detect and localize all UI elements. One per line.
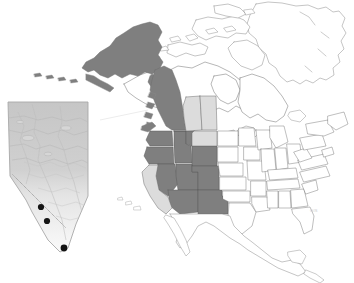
aleutian-islands <box>34 73 78 83</box>
region-maryland-delaware <box>322 147 334 157</box>
region-kansas <box>220 177 246 190</box>
region-arizona <box>168 190 198 214</box>
newfoundland <box>288 110 306 122</box>
region-central-america <box>304 270 324 283</box>
region-oregon <box>144 147 174 164</box>
region-eastern-canada <box>238 74 288 122</box>
alberta-boundary <box>8 102 88 252</box>
region-montana-east <box>192 131 217 146</box>
vancouver-island <box>141 122 156 132</box>
region-arctic-islands <box>192 16 250 40</box>
region-ellesmere <box>214 4 246 18</box>
sample-point-3 <box>61 245 68 252</box>
sample-point-1 <box>38 204 44 210</box>
region-pennsylvania <box>300 134 326 150</box>
region-kentucky <box>268 168 298 180</box>
distribution-map-figure: GIS <box>0 0 354 283</box>
region-iowa <box>244 147 260 160</box>
region-alberta <box>183 96 202 131</box>
region-minnesota <box>239 128 256 146</box>
region-washington <box>146 131 173 146</box>
region-arkansas <box>251 181 266 196</box>
region-south-dakota <box>218 147 238 162</box>
alberta-inset-map <box>4 100 100 255</box>
hawaii-islands <box>118 197 141 210</box>
region-illinois <box>261 149 276 172</box>
region-greenland <box>247 2 346 84</box>
region-wyoming <box>192 146 217 166</box>
region-nebraska <box>218 163 243 176</box>
region-tennessee <box>267 179 300 190</box>
region-indiana <box>275 148 288 170</box>
region-oklahoma <box>223 191 250 202</box>
region-mississippi <box>267 191 278 208</box>
inset-leader-line <box>100 110 148 120</box>
region-saskatchewan <box>200 96 217 130</box>
region-alabama <box>279 191 291 208</box>
map-attribution: GIS <box>310 208 318 213</box>
region-michigan <box>270 126 288 148</box>
region-wisconsin <box>256 130 272 150</box>
unshaded-us-states <box>218 112 348 234</box>
region-north-dakota <box>218 131 238 146</box>
region-victoria-island <box>167 42 208 57</box>
region-alaska <box>82 22 163 78</box>
sample-point-2 <box>44 218 50 224</box>
